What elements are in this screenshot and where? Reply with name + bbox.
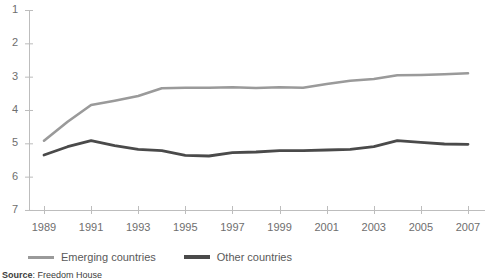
x-axis-tick-label: 1995 — [163, 222, 207, 233]
x-axis-tick-label: 1999 — [258, 222, 302, 233]
legend-item-label: Other countries — [217, 251, 292, 263]
legend-item-other-countries: Other countries — [184, 251, 292, 263]
chart-legend: Emerging countriesOther countries — [28, 250, 292, 264]
source-note: Source: Freedom House — [2, 270, 102, 280]
x-axis-tick-label: 1993 — [116, 222, 160, 233]
y-axis-tick-label: 3 — [2, 71, 18, 82]
x-axis-tick-label: 2007 — [446, 222, 490, 233]
chart-axes — [30, 10, 486, 211]
freedom-house-line-chart: 1234567 19891991199319951997199920012003… — [0, 0, 491, 280]
chart-series-group — [44, 73, 468, 156]
x-axis-tick-label: 2001 — [305, 222, 349, 233]
x-axis-tick-label: 1989 — [22, 222, 66, 233]
series-line-other-countries — [44, 141, 468, 156]
y-axis-tick-label: 1 — [2, 4, 18, 15]
y-axis-tick-label: 5 — [2, 137, 18, 148]
source-separator: : — [33, 270, 36, 280]
y-axis-tick-label: 7 — [2, 204, 18, 215]
legend-item-emerging-countries: Emerging countries — [28, 251, 156, 263]
source-text: Freedom House — [38, 270, 103, 280]
series-line-emerging-countries — [44, 73, 468, 140]
x-axis-tick-label: 2003 — [352, 222, 396, 233]
legend-swatch-icon — [28, 256, 54, 259]
legend-swatch-icon — [184, 255, 210, 259]
chart-plot-area — [0, 0, 491, 240]
x-axis-tick-label: 2005 — [399, 222, 443, 233]
x-axis-tick-label: 1991 — [69, 222, 113, 233]
x-axis-tick-label: 1997 — [210, 222, 254, 233]
y-axis-tick-label: 6 — [2, 171, 18, 182]
source-label: Source — [2, 270, 33, 280]
y-axis-tick-label: 2 — [2, 37, 18, 48]
legend-item-label: Emerging countries — [61, 251, 156, 263]
y-axis-tick-label: 4 — [2, 104, 18, 115]
